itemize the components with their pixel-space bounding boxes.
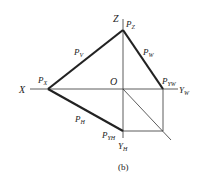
trace-pv-label: PV [73, 47, 85, 58]
z-axis-label: Z [113, 13, 119, 24]
x-axis-label: X [18, 84, 26, 95]
point-pyh-label: PYH [101, 130, 116, 141]
45-degree-line [123, 89, 171, 140]
trace-ph-label: PH [74, 114, 86, 125]
trace-ph [48, 89, 123, 131]
point-pyw-label: PYW [161, 76, 177, 87]
projection-diagram: Z X O YW YH PZ PX PYW PYH PV PW PH (b) [0, 0, 199, 187]
point-px-label: PX [37, 75, 48, 86]
trace-pw-label: PW [142, 47, 155, 58]
figure-caption: (b) [118, 162, 129, 172]
origin-label: O [110, 76, 117, 87]
yh-axis-label: YH [118, 141, 128, 152]
trace-pw [123, 30, 163, 89]
point-pz-label: PZ [125, 19, 136, 30]
yw-axis-label: YW [179, 85, 190, 96]
